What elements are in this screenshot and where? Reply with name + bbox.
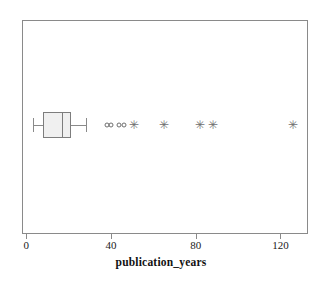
lower-whisker-line <box>33 125 44 126</box>
outlier-star-marker: ✳ <box>208 119 218 131</box>
median-line <box>62 112 63 138</box>
x-axis-label: publication_years <box>0 256 322 268</box>
outlier-circle-marker <box>121 123 126 128</box>
upper-whisker-cap <box>86 118 87 132</box>
box-iqr <box>43 112 71 138</box>
x-tick-label: 120 <box>272 239 289 252</box>
plot-area: ✳✳✳✳✳ <box>22 20 308 234</box>
outlier-star-marker: ✳ <box>195 119 205 131</box>
x-tick-label: 40 <box>105 239 116 252</box>
outlier-star-marker: ✳ <box>288 119 298 131</box>
lower-whisker-cap <box>33 118 34 132</box>
x-tick-label: 0 <box>23 239 29 252</box>
outlier-star-marker: ✳ <box>129 119 139 131</box>
upper-whisker-line <box>71 125 86 126</box>
outlier-circle-marker <box>108 123 113 128</box>
outlier-star-marker: ✳ <box>159 119 169 131</box>
boxplot-figure: ✳✳✳✳✳ 04080120 publication_years <box>0 0 322 282</box>
x-tick-label: 80 <box>190 239 201 252</box>
